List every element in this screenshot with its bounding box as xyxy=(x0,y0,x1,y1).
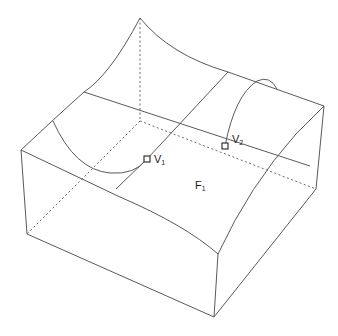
label-f1-main: F xyxy=(195,179,202,191)
bottom-front-left-edge xyxy=(27,234,214,317)
vertex-v2-marker xyxy=(222,143,228,149)
top-front-right-edge xyxy=(218,106,324,254)
right-vertical-edge xyxy=(316,106,324,189)
visible-edges xyxy=(21,18,324,317)
ridge-to-v1-line xyxy=(147,72,228,159)
solid-wireframe-figure xyxy=(0,0,338,336)
left-vertical-edge xyxy=(21,150,27,234)
label-v2-sub: 2 xyxy=(239,139,243,146)
top-front-left-edge xyxy=(21,150,218,254)
left-trough-curve xyxy=(53,121,147,173)
label-v1-sub: 1 xyxy=(161,159,165,166)
bottom-front-right-edge xyxy=(214,189,316,317)
label-f1-sub: 1 xyxy=(202,185,206,192)
hidden-edges xyxy=(27,18,316,234)
top-back-right-curve xyxy=(140,18,324,106)
label-f1: F1 xyxy=(195,180,206,192)
label-v1: V1 xyxy=(154,154,165,166)
vertex-v1-marker xyxy=(144,156,150,162)
top-back-left-curve xyxy=(21,18,140,150)
label-v2: V2 xyxy=(232,134,243,146)
top-mid-line xyxy=(84,92,310,166)
front-vertical-edge xyxy=(214,254,218,317)
hidden-back-bottom-left-edge xyxy=(27,121,140,234)
